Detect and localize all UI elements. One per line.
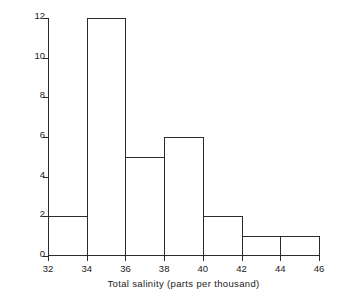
x-tick-label: 32: [43, 264, 54, 274]
histogram-bar: [242, 236, 282, 257]
x-tick-label: 36: [120, 264, 131, 274]
chart-title-clipped: [0, 0, 347, 6]
plot-area: 024681012 3234363840424446: [48, 18, 319, 256]
y-tick-label: 10: [34, 51, 45, 61]
histogram-bar: [48, 216, 88, 257]
histogram-bar: [280, 236, 320, 257]
histogram-bar: [125, 157, 165, 257]
y-tick-label: 6: [40, 130, 45, 140]
x-axis-label: Total salinity (parts per thousand): [48, 278, 319, 289]
x-tick-label: 42: [236, 264, 247, 274]
x-tick-label: 38: [159, 264, 170, 274]
x-tick-label: 44: [275, 264, 286, 274]
histogram-bar: [203, 216, 243, 257]
x-tick-label: 34: [81, 264, 92, 274]
histogram-bar: [87, 18, 127, 257]
y-tick-label: 4: [40, 170, 45, 180]
y-tick-label: 12: [34, 11, 45, 21]
histogram-figure: 024681012 3234363840424446 Total salinit…: [0, 0, 347, 299]
y-tick-label: 2: [40, 209, 45, 219]
x-tick-label: 46: [314, 264, 325, 274]
y-tick-label: 8: [40, 90, 45, 100]
x-tick-label: 40: [198, 264, 209, 274]
histogram-bar: [164, 137, 204, 257]
y-tick-label: 0: [40, 249, 45, 259]
